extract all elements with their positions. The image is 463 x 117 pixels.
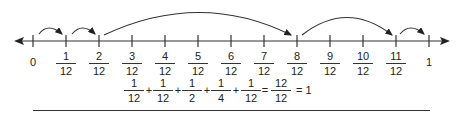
equation-tail: = 1 [296, 84, 312, 96]
tick-label: 1 12 [56, 50, 76, 77]
jump-arc-1 [39, 28, 62, 34]
equation-term: 1 12 [153, 77, 173, 104]
jump-arc-4 [302, 18, 392, 36]
tick-label: 6 12 [221, 50, 241, 77]
equation-term: 1 12 [241, 77, 261, 104]
jump-arc-2 [72, 28, 95, 34]
tick-label: 7 12 [254, 50, 274, 77]
equation-term: 1 4 [211, 77, 231, 104]
tick-label: 11 12 [386, 50, 406, 77]
equation-result: 12 12 [271, 77, 291, 104]
label-zero: 0 [27, 56, 39, 68]
jump-arcs [39, 13, 424, 36]
tick-label: 10 12 [353, 50, 373, 77]
tick-label: 8 12 [287, 50, 307, 77]
tick-label: 9 12 [320, 50, 340, 77]
tick-label: 3 12 [122, 50, 142, 77]
jump-arc-3 [104, 13, 291, 36]
equation-term: 1 2 [182, 77, 202, 104]
underline-divider [33, 110, 430, 111]
tick-label: 5 12 [188, 50, 208, 77]
equation: 1 12 + 1 12 + 1 2 + 1 4 + 1 12 = 12 12 =… [0, 77, 463, 107]
label-one: 1 [423, 56, 435, 68]
tick-label: 2 12 [89, 50, 109, 77]
equation-term: 1 12 [124, 77, 144, 104]
tick-label: 4 12 [155, 50, 175, 77]
jump-arc-5 [400, 28, 424, 34]
equals-sign: = [259, 84, 271, 96]
axis-line [14, 37, 450, 45]
